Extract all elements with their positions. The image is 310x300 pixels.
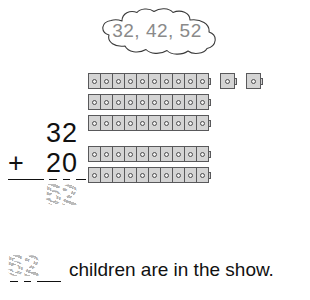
linking-cube-icon [196, 115, 209, 131]
cube-train-10 [88, 73, 211, 89]
cube-stud-icon [152, 173, 157, 178]
cube-row [88, 114, 263, 132]
cube-stud-icon [164, 100, 169, 105]
cube-train-10 [88, 167, 211, 183]
cube-train-10 [88, 94, 211, 110]
cube-stud-icon [140, 121, 145, 126]
linking-cube-icon [246, 73, 261, 89]
cube-stud-icon [128, 121, 133, 126]
cube-stud-icon [188, 152, 193, 157]
cube-stud-icon [92, 173, 97, 178]
number-cloud: 32, 42, 52 [92, 8, 222, 55]
cube-row [88, 72, 263, 90]
addend-bottom: 20 [46, 148, 78, 178]
cube-stud-icon [116, 152, 121, 157]
cube-row [88, 145, 263, 163]
cube-stud-icon [251, 79, 256, 84]
cube-stud-icon [116, 79, 121, 84]
cube-stud-icon [152, 79, 157, 84]
cube-stud-icon [92, 152, 97, 157]
cube-stud-icon [164, 173, 169, 178]
addition-answer-slot[interactable]: 52 [8, 180, 86, 210]
cube-stud-icon [176, 79, 181, 84]
answer-sentence-text: children are in the show. [61, 259, 274, 282]
linking-cube-icon [196, 73, 209, 89]
cube-stud-icon [116, 121, 121, 126]
cube-stud-icon [152, 152, 157, 157]
cube-stud-icon [128, 100, 133, 105]
cube-stud-icon [200, 100, 205, 105]
cube-stud-icon [128, 173, 133, 178]
cube-stud-icon [176, 173, 181, 178]
addition-answer-traced: 52 [46, 180, 78, 210]
cube-stud-icon [225, 79, 230, 84]
cube-row [88, 166, 263, 184]
cube-stud-icon [116, 173, 121, 178]
cloud-numbers: 32, 42, 52 [92, 8, 222, 55]
cube-stud-icon [164, 79, 169, 84]
cube-train-10 [88, 115, 211, 131]
cube-stud-icon [104, 121, 109, 126]
cube-stud-icon [92, 121, 97, 126]
cube-stud-icon [176, 100, 181, 105]
cube-stud-icon [164, 121, 169, 126]
cube-stud-icon [176, 152, 181, 157]
cube-stud-icon [188, 79, 193, 84]
cube-stud-icon [188, 173, 193, 178]
cube-stud-icon [176, 121, 181, 126]
cube-manipulative-area [88, 72, 263, 187]
cube-stud-icon [116, 100, 121, 105]
cube-stud-icon [188, 100, 193, 105]
cube-stud-icon [200, 173, 205, 178]
cube-stud-icon [104, 100, 109, 105]
single-cube [220, 73, 237, 89]
answer-blank-traced: 52 [8, 252, 40, 280]
addend-row-bottom: + 20 [8, 148, 86, 178]
cube-stud-icon [152, 121, 157, 126]
cube-stud-icon [128, 79, 133, 84]
cube-stud-icon [140, 152, 145, 157]
cube-row [88, 93, 263, 111]
cube-stud-icon [92, 79, 97, 84]
vertical-addition-problem: 32 + 20 52 [8, 118, 86, 210]
cube-stud-icon [92, 100, 97, 105]
cube-stud-icon [200, 79, 205, 84]
addend-top: 32 [8, 118, 86, 148]
answer-blank[interactable]: 52 [7, 252, 61, 282]
cube-stud-icon [152, 100, 157, 105]
cube-train-10 [88, 146, 211, 162]
cube-stud-icon [188, 121, 193, 126]
cube-stud-icon [200, 121, 205, 126]
cube-stud-icon [140, 79, 145, 84]
plus-operator: + [8, 148, 25, 178]
cube-stud-icon [200, 152, 205, 157]
cube-stud-icon [104, 173, 109, 178]
cube-stud-icon [140, 173, 145, 178]
cube-stud-icon [128, 152, 133, 157]
linking-cube-icon [196, 94, 209, 110]
cube-stud-icon [164, 152, 169, 157]
answer-statement: 52 children are in the show. [7, 252, 274, 282]
cube-stud-icon [140, 100, 145, 105]
linking-cube-icon [196, 167, 209, 183]
single-cube [246, 73, 263, 89]
cube-stud-icon [104, 152, 109, 157]
linking-cube-icon [196, 146, 209, 162]
cube-stud-icon [104, 79, 109, 84]
linking-cube-icon [220, 73, 235, 89]
